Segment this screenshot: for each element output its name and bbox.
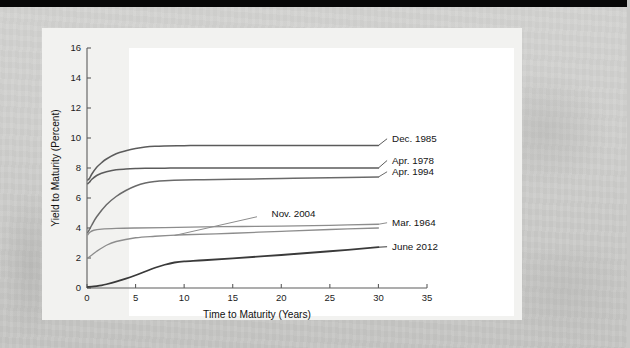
x-tick-label: 15 — [227, 292, 238, 303]
series-line-dec-1985 — [88, 145, 379, 180]
y-tick-label: 8 — [76, 162, 81, 173]
x-tick-label: 25 — [325, 292, 336, 303]
series-label-june-2012: June 2012 — [392, 241, 438, 252]
y-tick-label: 2 — [76, 252, 81, 263]
y-tick-label: 16 — [70, 42, 81, 53]
series-label-apr-1978: Apr. 1978 — [392, 155, 434, 166]
top-black-band — [0, 0, 627, 7]
series-label-dec-1985: Dec. 1985 — [392, 133, 437, 144]
series-line-apr-1978 — [88, 168, 379, 184]
x-tick-label: 0 — [84, 292, 89, 303]
x-tick-label: 30 — [373, 292, 384, 303]
y-tick-label: 10 — [70, 132, 81, 143]
x-axis-title: Time to Maturity (Years) — [203, 309, 311, 320]
series-leader-line — [378, 161, 387, 169]
figure-panel: 051015202530350246810121416Dec. 1985Apr.… — [42, 28, 522, 320]
page-smudge-bottom-right — [520, 250, 630, 348]
y-tick-label: 14 — [70, 72, 81, 83]
y-axis-title: Yield to Maturity (Percent) — [50, 109, 61, 226]
series-label-mar-1964: Mar. 1964 — [392, 217, 436, 228]
x-tick-label: 5 — [133, 292, 138, 303]
x-tick-label: 20 — [276, 292, 287, 303]
y-tick-label: 0 — [76, 282, 81, 293]
series-leader-line — [378, 223, 387, 225]
series-line-nov-2004 — [88, 228, 379, 258]
series-label-nov-2004: Nov. 2004 — [272, 208, 316, 219]
series-line-june-2012 — [88, 247, 379, 287]
series-leader-line — [378, 172, 387, 177]
yield-curve-chart: 051015202530350246810121416Dec. 1985Apr.… — [42, 28, 522, 320]
y-tick-label: 4 — [76, 222, 81, 233]
y-tick-label: 6 — [76, 192, 81, 203]
x-tick-label: 10 — [179, 292, 190, 303]
series-leader-line — [378, 139, 387, 146]
series-label-apr-1994: Apr. 1994 — [392, 166, 434, 177]
series-line-apr-1994 — [88, 177, 379, 233]
y-tick-label: 12 — [70, 102, 81, 113]
x-tick-label: 35 — [422, 292, 433, 303]
